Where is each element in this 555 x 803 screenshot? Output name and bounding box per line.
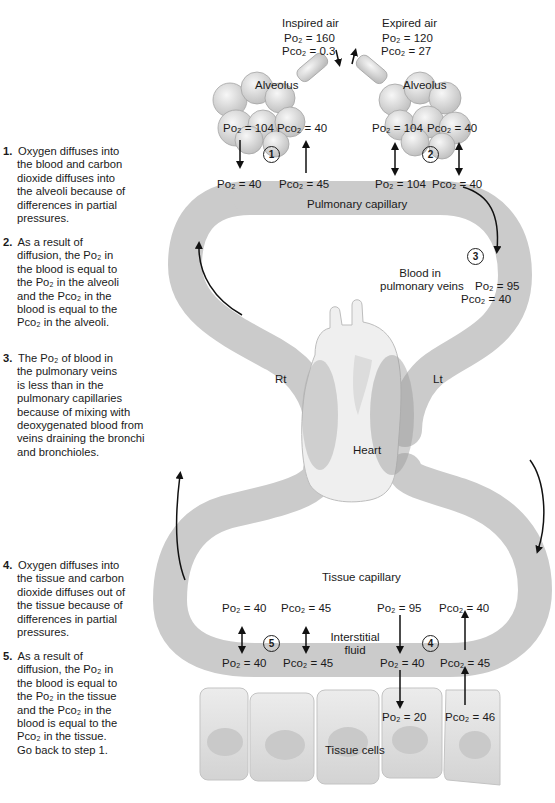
expired-po2: Po₂ = 120: [382, 32, 433, 45]
step-marker-4: 4: [422, 635, 439, 652]
heart-illustration: [302, 300, 414, 502]
pulmonary-veins-po2: Po₂ = 95: [475, 280, 519, 293]
pulmonary-veins-label: Blood in pulmonary veins: [380, 267, 460, 293]
interstitial-pco2-left: Pco₂ = 45: [283, 657, 333, 670]
alveolus-left-pco2: Pco₂ = 40: [277, 122, 327, 135]
step-marker-3: 3: [467, 248, 484, 265]
step-3-text: 3. The Po₂ of blood in the pulmonary vei…: [3, 352, 175, 459]
tissue-cells-label: Tissue cells: [325, 744, 385, 757]
alveolus-left-label: Alveolus: [255, 79, 298, 92]
inspired-air-label: Inspired air: [282, 17, 339, 30]
tissue-capillary-pco2-in: Pco₂ = 40: [439, 602, 489, 615]
tissue-capillary-po2-in: Po₂ = 95: [377, 602, 421, 615]
alveolus-right-po2: Po₂ = 104: [372, 122, 423, 135]
tissue-cells-illustration: [200, 688, 500, 785]
step-2-text: 2. As a result of diffusion, the Po₂ in …: [3, 236, 175, 330]
expired-pco2: Pco₂ = 27: [381, 45, 431, 58]
alveolus-right-label: Alveolus: [403, 79, 446, 92]
expired-air-label: Expired air: [382, 17, 437, 30]
pulmonary-capillary-pco2-out: Pco₂ = 40: [432, 178, 482, 191]
step-marker-2: 2: [422, 146, 439, 163]
tissue-capillary-pco2-out: Pco₂ = 45: [281, 602, 331, 615]
alveolus-right-illustration: [354, 53, 471, 159]
inspired-po2: Po₂ = 160: [284, 32, 335, 45]
step-1-text: 1. Oxygen diffuses into the blood and ca…: [3, 145, 175, 225]
left-side-label: Lt: [433, 373, 443, 386]
alveolus-left-illustration: [213, 51, 330, 157]
inspired-pco2: Pco₂ = 0.3: [282, 45, 335, 58]
step-marker-5: 5: [263, 635, 280, 652]
tissue-cell-po2: Po₂ = 20: [382, 711, 426, 724]
pulmonary-capillary-label: Pulmonary capillary: [307, 198, 407, 211]
alveolus-right-pco2: Pco₂ = 40: [427, 122, 477, 135]
interstitial-po2-right: Po₂ = 40: [380, 657, 424, 670]
pulmonary-capillary-po2-in: Po₂ = 40: [217, 178, 261, 191]
right-side-label: Rt: [275, 373, 287, 386]
step-4-text: 4. Oxygen diffuses into the tissue and c…: [3, 559, 175, 639]
tissue-capillary-label: Tissue capillary: [322, 571, 401, 584]
pulmonary-veins-pco2: Pco₂ = 40: [461, 293, 511, 306]
pulmonary-capillary-pco2-in: Pco₂ = 45: [279, 178, 329, 191]
pulmonary-capillary-po2-out: Po₂ = 104: [375, 178, 426, 191]
interstitial-pco2-right: Pco₂ = 45: [440, 657, 490, 670]
tissue-cell-pco2: Pco₂ = 46: [445, 711, 495, 724]
tissue-capillary-po2-out: Po₂ = 40: [222, 602, 266, 615]
step-marker-1: 1: [263, 146, 280, 163]
interstitial-po2-left: Po₂ = 40: [222, 657, 266, 670]
interstitial-fluid-label: Interstitial fluid: [325, 631, 385, 657]
heart-label: Heart: [353, 444, 381, 457]
alveolus-left-po2: Po₂ = 104: [223, 122, 274, 135]
step-5-text: 5. As a result of diffusion, the Po₂ in …: [3, 650, 175, 757]
